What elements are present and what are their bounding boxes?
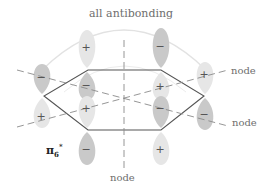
node-label-upper-right: node (231, 65, 256, 76)
sign-minus: − (81, 81, 91, 91)
sign-plus: + (155, 145, 165, 155)
sign-plus: + (199, 70, 209, 80)
orbital-subscript: 6 (54, 150, 59, 159)
sign-minus: − (155, 104, 165, 114)
diagram-title: all antibonding (89, 7, 173, 20)
orbital-label: π6* (46, 142, 63, 159)
sign-minus: − (155, 42, 165, 52)
benzene-mo-diagram (0, 0, 267, 191)
sign-minus: − (199, 110, 209, 120)
orbital-superscript: * (59, 142, 63, 151)
sign-plus: + (36, 112, 46, 122)
sign-plus: + (81, 104, 91, 114)
sign-minus: − (81, 145, 91, 155)
sign-plus: + (155, 82, 165, 92)
node-label-lower-right: node (232, 117, 257, 128)
orbital-symbol: π (46, 144, 54, 157)
sign-plus: + (81, 43, 91, 53)
sign-minus: − (36, 73, 46, 83)
node-label-bottom: node (110, 172, 135, 183)
